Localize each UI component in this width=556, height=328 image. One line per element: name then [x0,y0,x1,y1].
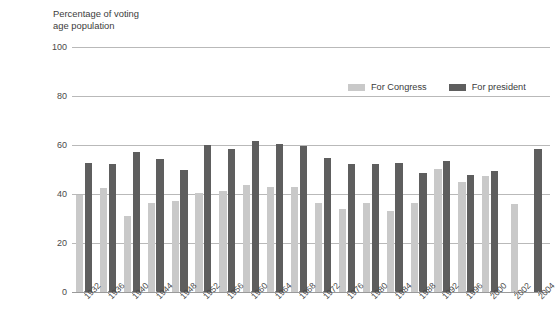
bar-congress-1956 [219,191,226,292]
bar-congress-1988 [411,203,418,292]
bar-president-1972 [324,158,331,292]
bar-congress-1996 [458,182,465,292]
bar-group [168,47,192,292]
bar-congress-1932 [76,195,83,292]
bar-congress-1940 [124,216,131,292]
bar-congress-2000 [482,176,489,292]
y-tick-label-0: 0 [62,287,67,297]
y-tick-label-20: 20 [57,238,67,248]
bar-congress-1964 [267,187,274,292]
y-axis-title: Percentage of voting age population [53,8,139,33]
bar-group [120,47,144,292]
chart-figure: ureau. ct of the ashington, rinting Perc… [0,0,556,328]
bar-president-1940 [133,152,140,292]
bar-president-1956 [228,149,235,292]
legend-swatch-congress [348,84,365,91]
x-axis-labels: 1932193619401944194819521956196019641968… [72,294,550,328]
y-tick-label-100: 100 [52,42,67,52]
bar-congress-1944 [148,203,155,292]
y-tick-label-60: 60 [57,140,67,150]
bar-president-1964 [276,144,283,292]
bar-congress-1948 [172,201,179,292]
bar-president-1952 [204,145,211,292]
bar-president-1988 [419,173,426,292]
bar-congress-1980 [363,203,370,292]
bar-group [192,47,216,292]
source-note: ureau. ct of the ashington, rinting [0,56,48,97]
bar-congress-1984 [387,211,394,292]
bar-congress-1936 [100,188,107,292]
bar-group [215,47,239,292]
bar-congress-1992 [434,169,441,292]
bar-group [144,47,168,292]
bar-congress-1972 [315,203,322,292]
legend-item-president: For president [449,82,526,92]
bar-president-1948 [180,170,187,293]
legend-label-president: For president [472,82,526,92]
bar-congress-1960 [243,185,250,292]
bar-group [311,47,335,292]
legend-swatch-president [449,84,466,91]
bar-president-1960 [252,141,259,292]
bar-congress-2002 [511,204,518,292]
bar-group [526,47,550,292]
bar-president-2000 [491,171,498,292]
y-tick-label-40: 40 [57,189,67,199]
y-tick-label-80: 80 [57,91,67,101]
bar-president-1984 [395,163,402,292]
bar-president-1980 [372,164,379,292]
bar-group [239,47,263,292]
bar-president-1932 [85,163,92,292]
bar-president-1996 [467,175,474,292]
legend-label-congress: For Congress [371,82,427,92]
bar-group [96,47,120,292]
bar-group [287,47,311,292]
bar-congress-1976 [339,209,346,292]
bar-congress-1952 [195,193,202,292]
bar-president-2004 [534,149,541,292]
bar-group [72,47,96,292]
bar-president-1992 [443,161,450,292]
legend-item-congress: For Congress [348,82,427,92]
bar-president-1936 [109,164,116,292]
bar-president-1968 [300,146,307,292]
bar-president-1976 [348,164,355,292]
chart-legend: For CongressFor president [348,82,526,92]
bar-president-1944 [156,159,163,292]
bar-group [263,47,287,292]
bar-congress-1968 [291,187,298,292]
